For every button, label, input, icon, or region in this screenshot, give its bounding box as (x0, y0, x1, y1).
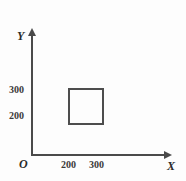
origin-label: O (19, 158, 28, 170)
y-tick-label-200: 200 (9, 111, 24, 121)
x-axis-arrow-icon (164, 151, 172, 159)
y-tick-label-300: 300 (9, 85, 24, 95)
square-region-shape (68, 88, 104, 125)
x-axis-line (31, 154, 166, 156)
x-axis-label: X (167, 160, 175, 172)
y-axis-line (31, 34, 33, 156)
x-tick-label-300: 300 (89, 160, 104, 170)
coordinate-plane-figure: Y X O 300 200 200 300 (0, 0, 186, 181)
y-axis-arrow-icon (28, 28, 36, 36)
y-axis-label: Y (17, 30, 24, 42)
x-tick-label-200: 200 (61, 160, 76, 170)
